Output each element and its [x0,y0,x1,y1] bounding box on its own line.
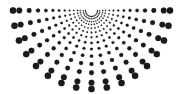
data-point [86,31,88,33]
data-point [124,60,129,65]
radial-scatter-figure [0,0,183,94]
data-point [98,15,99,16]
data-point [84,41,86,43]
data-point [76,20,78,22]
data-point [89,18,90,19]
data-point [103,39,105,41]
data-point [91,32,93,34]
data-point [105,13,106,14]
data-point [117,15,119,17]
data-point [73,13,75,15]
data-point [45,38,49,42]
data-point [108,36,110,38]
data-point [76,32,78,34]
data-point [77,69,82,74]
data-point [72,28,74,30]
data-point [63,27,65,29]
data-point [83,12,84,13]
data-point [106,25,108,27]
data-point [151,8,156,13]
data-point [10,7,16,13]
data-point [65,66,70,71]
data-point [143,8,147,12]
data-point [75,45,78,48]
data-point [108,13,110,15]
data-point [61,74,67,80]
data-point [70,18,72,20]
data-point [90,42,92,44]
data-point [80,10,81,11]
data-point [103,78,109,84]
data-point [96,17,97,18]
data-point [93,21,94,22]
data-point [123,9,125,11]
data-point [72,36,74,38]
data-point [86,17,87,18]
data-point [66,20,68,22]
data-point [119,53,123,57]
data-point [99,18,100,19]
data-point [78,15,79,16]
data-point [97,10,98,11]
data-point [28,20,33,25]
data-point [29,48,35,54]
data-point [84,15,85,16]
data-point [101,69,106,74]
data-point [102,12,103,13]
data-point [69,14,71,16]
data-point [52,34,55,37]
data-point [91,16,92,17]
data-point [87,20,88,21]
data-point [67,32,69,34]
data-point [83,21,84,22]
data-point [99,54,102,57]
data-point [94,24,95,25]
data-point [37,19,41,23]
data-point [69,10,71,12]
data-point [103,28,105,30]
data-point [111,18,113,20]
data-point [75,25,77,27]
data-point [105,10,106,11]
data-point [97,16,98,17]
data-point [89,21,90,22]
data-point [72,22,74,24]
data-point [83,13,84,14]
data-point [52,17,55,20]
data-point [161,8,167,14]
data-point [117,27,119,29]
data-point [91,24,92,25]
data-point [135,9,138,12]
data-point [79,61,83,65]
data-point [88,86,94,92]
data-point [88,15,89,16]
data-point [109,28,111,30]
data-point [104,15,105,16]
data-point [99,13,100,14]
data-point [94,18,95,19]
data-point [16,37,22,43]
data-point [97,41,99,43]
data-point [80,34,82,36]
data-point [63,36,66,39]
data-point [117,9,119,11]
data-point [102,10,103,11]
data-point [94,27,96,29]
data-point [73,10,75,12]
data-point [78,39,80,41]
data-point [101,25,103,27]
data-point [112,41,115,44]
data-point [105,32,107,34]
data-point [140,59,146,65]
data-point [38,59,44,65]
data-point [68,24,70,26]
data-point [36,8,40,12]
data-point [89,62,93,66]
data-point [116,74,122,80]
data-point [107,17,109,19]
data-point [45,52,50,57]
data-point [44,9,47,12]
data-point [96,23,97,24]
data-point [40,29,44,33]
data-point [147,32,152,37]
